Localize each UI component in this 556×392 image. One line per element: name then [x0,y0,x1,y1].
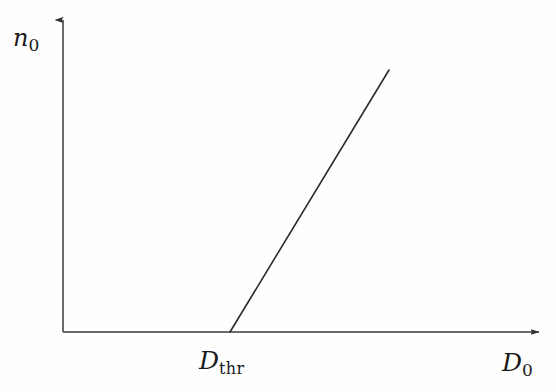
y-axis-label-subscript: 0 [28,35,39,55]
threshold-label-subscript: thr [219,359,244,378]
threshold-label: Dthr [199,348,244,373]
figure-canvas: n0 Dthr D0 [0,0,556,392]
y-axis-label-symbol: n [13,24,28,52]
x-axis-label-subscript: 0 [522,360,533,380]
x-axis-label-symbol: D [502,348,522,377]
x-axis-label: D0 [502,350,533,375]
threshold-label-symbol: D [199,346,219,375]
y-axis-label: n0 [13,26,39,50]
plot-background [0,0,556,392]
plot-svg [0,0,556,392]
